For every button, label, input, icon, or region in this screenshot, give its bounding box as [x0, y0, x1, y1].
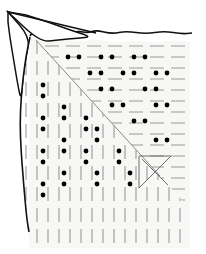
data-dot [95, 138, 100, 143]
data-dot [154, 71, 159, 76]
data-dot [41, 127, 46, 132]
data-dot [99, 55, 104, 60]
data-dot [41, 149, 46, 154]
data-dot [143, 87, 148, 92]
data-dot [95, 127, 100, 132]
data-dot [62, 138, 67, 143]
data-dot [110, 103, 115, 108]
data-dot [132, 71, 137, 76]
data-dot [117, 149, 122, 154]
data-dot [117, 160, 122, 165]
data-dot [66, 55, 71, 60]
data-dot [165, 71, 170, 76]
data-dot [84, 127, 89, 132]
data-dot [121, 103, 126, 108]
data-dot [41, 182, 46, 187]
data-dot [77, 55, 82, 60]
data-dot [41, 116, 46, 121]
data-dot [84, 116, 89, 121]
data-dot [143, 55, 148, 60]
data-dot [110, 55, 115, 60]
data-dot [88, 71, 93, 76]
data-dot [62, 116, 67, 121]
paper-sheet [29, 37, 190, 248]
data-dot [132, 119, 137, 124]
data-dot [121, 71, 126, 76]
data-dot [110, 87, 115, 92]
data-dot [154, 103, 159, 108]
data-dot [41, 94, 46, 99]
data-dot [41, 160, 46, 165]
data-dot [84, 160, 89, 165]
data-dot [95, 182, 100, 187]
data-dot [99, 87, 104, 92]
data-dot [41, 193, 46, 198]
data-dot [165, 103, 170, 108]
figure-root: Folded sheet with dashed grid and paired… [0, 0, 206, 254]
data-dot [165, 138, 170, 143]
paper-diagram [0, 0, 206, 254]
data-dot [62, 149, 67, 154]
data-dot [95, 171, 100, 176]
data-dot [62, 171, 67, 176]
data-dot [128, 182, 133, 187]
data-dot [154, 138, 159, 143]
data-dot [143, 119, 148, 124]
data-dot [41, 83, 46, 88]
data-dot [99, 71, 104, 76]
data-dot [62, 182, 67, 187]
data-dot [84, 149, 89, 154]
data-dot [62, 105, 67, 110]
data-dot [128, 171, 133, 176]
data-dot [154, 87, 159, 92]
data-dot [132, 55, 137, 60]
